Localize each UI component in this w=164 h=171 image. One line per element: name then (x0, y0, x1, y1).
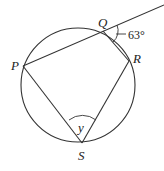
angle-arc-Q (113, 25, 118, 42)
angle-label-y: y (76, 120, 84, 135)
angle-label-63: 63° (128, 28, 145, 42)
circle-diagram: Q P R S 63° y (0, 0, 164, 171)
chord-PS (23, 66, 82, 143)
label-S: S (78, 148, 85, 163)
chord-QR (103, 31, 129, 61)
label-Q: Q (98, 15, 108, 30)
label-P: P (10, 58, 19, 73)
chord-RS (82, 61, 129, 143)
label-R: R (132, 51, 141, 66)
